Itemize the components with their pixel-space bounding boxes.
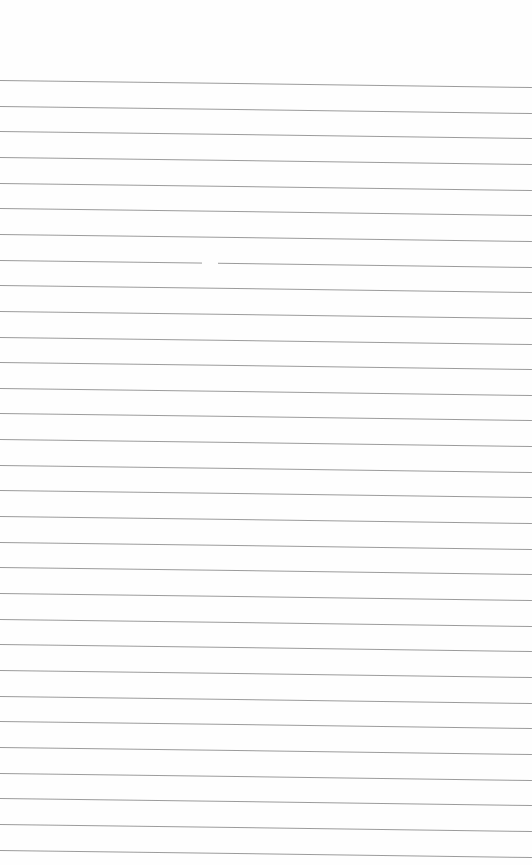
- ruled-line: [0, 362, 532, 370]
- ruled-line: [0, 721, 532, 729]
- ruled-line: [0, 208, 532, 216]
- ruled-line: [0, 747, 532, 755]
- ruled-line: [0, 567, 532, 575]
- ruled-line: [0, 157, 532, 165]
- ruled-line: [0, 311, 532, 319]
- ruled-line: [0, 670, 532, 678]
- ruled-line: [0, 773, 532, 781]
- ruled-line: [0, 490, 532, 498]
- ruled-line: [0, 593, 532, 601]
- ruled-line: [0, 824, 532, 832]
- ruled-line: [0, 798, 532, 806]
- ruled-line: [0, 106, 532, 114]
- ruled-line: [0, 542, 532, 550]
- ruled-line: [0, 644, 532, 652]
- ruled-line: [0, 850, 532, 858]
- lined-paper-page: [0, 0, 532, 865]
- ruled-line: [0, 696, 532, 704]
- ruled-line: [0, 131, 532, 139]
- ruled-line: [0, 285, 532, 293]
- ruled-line: [0, 619, 532, 627]
- ruled-line: [0, 183, 532, 191]
- ruled-line: [0, 439, 532, 447]
- ruled-line: [0, 80, 532, 88]
- ruled-line: [0, 234, 532, 242]
- line-gap: [202, 261, 218, 264]
- ruled-line: [0, 516, 532, 524]
- ruled-line: [0, 413, 532, 421]
- ruled-line: [0, 260, 532, 268]
- ruled-line: [0, 337, 532, 345]
- ruled-line: [0, 465, 532, 473]
- ruled-line: [0, 388, 532, 396]
